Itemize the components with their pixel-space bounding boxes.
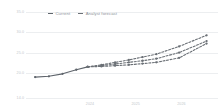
data-point — [155, 53, 157, 55]
data-point — [205, 34, 207, 36]
x-tick-label: 2025 — [132, 102, 140, 106]
y-tick-label: 25.0 — [2, 51, 24, 55]
series-line — [35, 67, 88, 77]
forecast-line-chart: 35.030.025.020.014.0 202420252026 Curren… — [0, 0, 220, 112]
data-point — [61, 73, 63, 75]
y-axis: 35.030.025.020.014.0 — [0, 12, 24, 98]
chart-legend: CurrentAnalyst forecast — [48, 11, 117, 16]
data-point — [128, 61, 130, 63]
data-point — [48, 75, 50, 77]
series-layer — [26, 12, 218, 98]
data-point — [141, 62, 143, 64]
data-point — [178, 57, 180, 59]
plot-area — [26, 12, 218, 98]
data-point — [205, 40, 207, 42]
legend-swatch-icon — [48, 13, 53, 15]
data-point — [155, 61, 157, 63]
data-point — [128, 64, 130, 66]
data-point — [178, 51, 180, 53]
data-point — [100, 65, 102, 67]
legend-label: Analyst forecast — [86, 11, 117, 16]
legend-swatch-icon — [78, 13, 83, 14]
legend-label: Current — [56, 11, 71, 16]
data-point — [128, 59, 130, 61]
data-point — [87, 66, 89, 68]
x-tick-label: 2024 — [86, 102, 94, 106]
y-tick-label: 30.0 — [2, 30, 24, 34]
series-line — [88, 44, 207, 67]
series-line — [88, 35, 207, 67]
gridline — [26, 98, 218, 99]
x-tick-label: 2026 — [177, 102, 185, 106]
data-point — [114, 65, 116, 67]
data-point — [75, 69, 77, 71]
x-axis: 202420252026 — [26, 100, 218, 109]
data-point — [178, 45, 180, 47]
y-tick-label: 20.0 — [2, 71, 24, 75]
legend-item[interactable]: Current — [48, 11, 70, 16]
y-tick-label: 35.0 — [2, 10, 24, 14]
data-point — [205, 42, 207, 44]
data-point — [34, 76, 36, 78]
y-tick-label: 14.0 — [2, 96, 24, 100]
data-point — [141, 60, 143, 62]
data-point — [155, 58, 157, 60]
data-point — [141, 56, 143, 58]
legend-item[interactable]: Analyst forecast — [78, 11, 117, 16]
